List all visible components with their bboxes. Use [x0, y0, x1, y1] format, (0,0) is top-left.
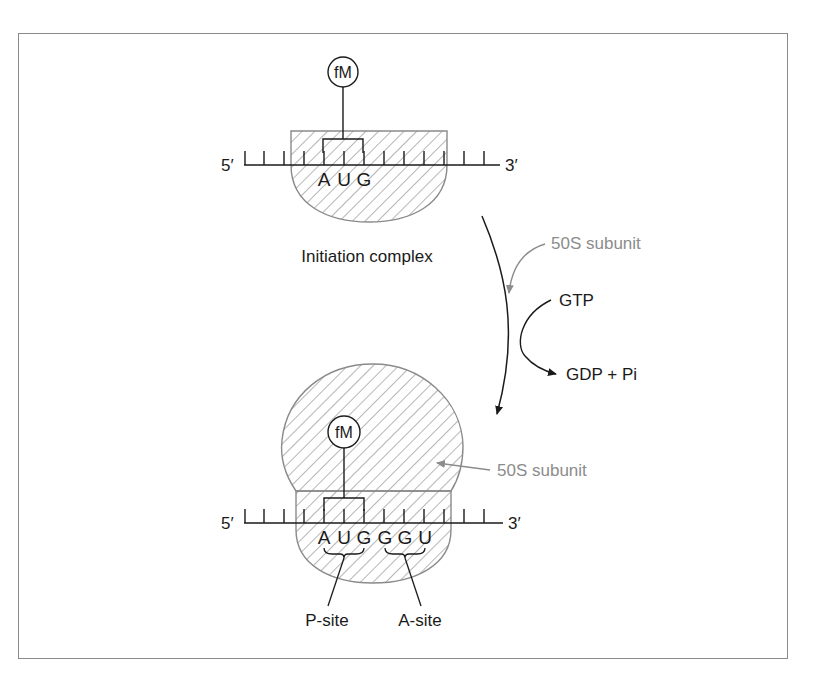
- gdp-pi-label: GDP + Pi: [566, 365, 637, 384]
- transition-arrows: 50S subunit GTP GDP + Pi: [482, 216, 641, 414]
- codon-base: G: [398, 527, 413, 548]
- three-prime-label: 3′: [505, 156, 518, 175]
- codon-base: G: [357, 527, 372, 548]
- initiation-complex: 5′ 3′ fM A U G Initiation complex: [221, 57, 518, 266]
- codon-base: G: [357, 169, 372, 190]
- codon-base: U: [337, 169, 351, 190]
- five-prime-label: 5′: [221, 156, 234, 175]
- initiation-complex-label: Initiation complex: [301, 247, 433, 266]
- reaction-arrow: [482, 216, 508, 414]
- three-prime-label: 3′: [508, 514, 521, 533]
- codon-base: U: [418, 527, 432, 548]
- large-subunit-50s: [282, 364, 463, 491]
- a-site-label: A-site: [398, 611, 441, 630]
- codon-base: G: [378, 527, 393, 548]
- gtp-hydrolysis-arrow: [520, 300, 556, 374]
- codon-base: A: [318, 169, 331, 190]
- subunit-joining-arrow: [509, 244, 545, 293]
- p-site-label: P-site: [305, 611, 348, 630]
- fmet-label: fM: [334, 64, 352, 81]
- joining-subunit-label: 50S subunit: [551, 234, 641, 253]
- ribosome-diagram: 5′ 3′ fM A U G Initiation complex 50S su…: [0, 0, 820, 688]
- gtp-label: GTP: [559, 291, 594, 310]
- five-prime-label: 5′: [221, 514, 234, 533]
- fmet-label: fM: [335, 424, 353, 441]
- codon-base: U: [337, 527, 351, 548]
- ribosome-70s: 5′ 3′ fM 50S subunit A U G G G U P-site …: [221, 364, 587, 630]
- codon-base: A: [318, 527, 331, 548]
- large-subunit-label: 50S subunit: [497, 461, 587, 480]
